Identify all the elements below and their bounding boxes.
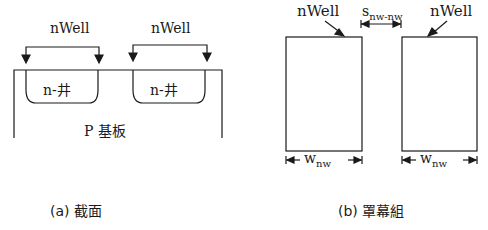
right-nwell-arrow-right <box>203 53 211 61</box>
mask-figure <box>286 20 477 164</box>
width-left-symbol: w <box>304 150 316 166</box>
spacing-subscript: nw-nw <box>369 11 402 22</box>
left-nwell-arrow-left <box>22 55 30 63</box>
right-pointer-line <box>434 21 447 32</box>
left-nwell-arrow-right <box>95 55 103 63</box>
caption-mask: (b) 罩幕組 <box>338 204 404 218</box>
mask-rect-left <box>286 37 362 151</box>
caption-cross-section: (a) 截面 <box>50 204 102 218</box>
mask-right-nwell-label: nWell <box>430 4 472 18</box>
width-right-label: wnw <box>420 151 447 171</box>
width-left-subscript: nw <box>316 158 331 169</box>
width-left-label: wnw <box>304 151 331 171</box>
right-nwell-bracket <box>133 45 207 59</box>
right-well-label: n-井 <box>150 83 178 97</box>
left-well-label: n-井 <box>43 83 71 97</box>
right-pointer-head <box>428 28 437 36</box>
left-nwell-label: nWell <box>50 21 90 35</box>
left-nwell-bracket <box>26 47 99 61</box>
spacing-label: snw-nw <box>362 4 403 24</box>
right-nwell-label: nWell <box>151 21 191 35</box>
mask-rect-right <box>402 37 477 151</box>
mask-left-nwell-label: nWell <box>297 4 339 18</box>
right-nwell-arrow-left <box>129 53 137 61</box>
width-right-symbol: w <box>420 150 432 166</box>
substrate-label: P 基板 <box>84 124 126 138</box>
width-right-subscript: nw <box>432 158 447 169</box>
